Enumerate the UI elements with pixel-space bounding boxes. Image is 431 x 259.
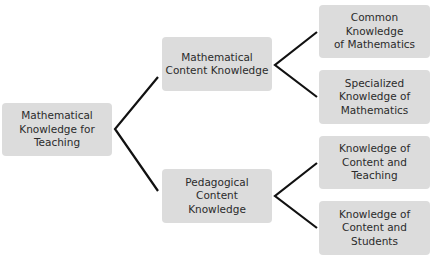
node-knowledge-of-content-and-teaching: Knowledge of Content and Teaching [319, 136, 430, 189]
node-label: Mathematical Content Knowledge [166, 51, 269, 78]
node-specialized-knowledge-of-mathematics: Specialized Knowledge of Mathematics [319, 70, 430, 124]
node-pedagogical-content-knowledge: Pedagogical Content Knowledge [162, 169, 272, 223]
node-mathematical-knowledge-for-teaching: Mathematical Knowledge for Teaching [2, 103, 112, 156]
connector-root-to-branches [115, 77, 158, 191]
node-label: Knowledge of Content and Teaching [339, 142, 410, 183]
node-mathematical-content-knowledge: Mathematical Content Knowledge [162, 37, 272, 91]
node-label: Knowledge of Content and Students [339, 208, 410, 249]
node-knowledge-of-content-and-students: Knowledge of Content and Students [319, 201, 430, 255]
connector-pedagogical-to-children [275, 163, 317, 228]
node-label: Specialized Knowledge of Mathematics [339, 77, 410, 118]
node-label: Pedagogical Content Knowledge [165, 176, 269, 217]
connector-content-to-children [275, 32, 317, 97]
node-common-knowledge-of-mathematics: Common Knowledge of Mathematics [319, 5, 430, 58]
node-label: Mathematical Knowledge for Teaching [19, 109, 95, 150]
node-label: Common Knowledge of Mathematics [322, 11, 427, 52]
